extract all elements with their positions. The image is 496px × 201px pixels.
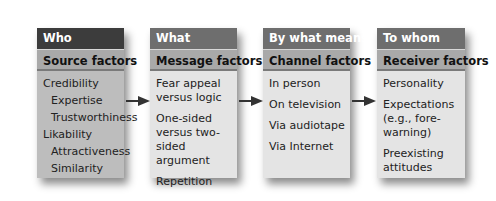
list-item: Trustworthiness bbox=[43, 111, 124, 125]
list-item: Repetition bbox=[156, 175, 237, 189]
column-channel: By what means Channel factors In person … bbox=[263, 28, 350, 178]
list-item: Credibility bbox=[43, 77, 124, 91]
column-question: What bbox=[150, 28, 237, 49]
list-item: One-sided versus two-sided argument bbox=[156, 112, 238, 168]
list-item: In person bbox=[269, 77, 350, 91]
column-body: Personality Expectations (e.g., fore-war… bbox=[377, 71, 465, 175]
column-body: Fear appeal versus logic One-sided versu… bbox=[150, 71, 237, 189]
persuasion-factors-diagram: Who Source factors Credibility Expertise… bbox=[0, 0, 496, 201]
arrow-right-icon bbox=[352, 96, 376, 106]
column-question: To whom bbox=[377, 28, 465, 49]
list-item: Similarity bbox=[43, 162, 124, 176]
list-item: Via audiotape bbox=[269, 119, 350, 133]
column-message: What Message factors Fear appeal versus … bbox=[150, 28, 237, 178]
column-factor-title: Receiver factors bbox=[377, 49, 465, 71]
list-item: Likability bbox=[43, 128, 124, 142]
column-factor-title: Channel factors bbox=[263, 49, 350, 71]
list-item: Attractiveness bbox=[43, 145, 124, 159]
column-receiver: To whom Receiver factors Personality Exp… bbox=[377, 28, 465, 178]
column-question: Who bbox=[37, 28, 124, 49]
arrow-right-icon bbox=[239, 96, 263, 106]
list-item: Preexisting attitudes bbox=[383, 147, 453, 175]
list-item: Fear appeal versus logic bbox=[156, 77, 231, 105]
list-item: Via Internet bbox=[269, 140, 350, 154]
column-body: Credibility Expertise Trustworthiness Li… bbox=[37, 71, 124, 176]
column-question: By what means bbox=[263, 28, 350, 49]
column-source: Who Source factors Credibility Expertise… bbox=[37, 28, 124, 178]
column-factor-title: Source factors bbox=[37, 49, 124, 71]
list-item: Expertise bbox=[43, 94, 124, 108]
column-factor-title: Message factors bbox=[150, 49, 237, 71]
list-item: Expectations (e.g., fore-warning) bbox=[383, 98, 453, 140]
list-item: Personality bbox=[383, 77, 465, 91]
column-body: In person On television Via audiotape Vi… bbox=[263, 71, 350, 154]
arrow-right-icon bbox=[126, 96, 150, 106]
list-item: On television bbox=[269, 98, 350, 112]
